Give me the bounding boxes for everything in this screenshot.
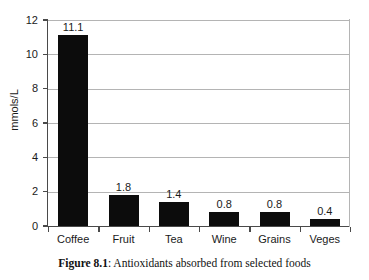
y-axis-tick-label: 0	[8, 221, 38, 232]
x-axis-tick	[199, 227, 200, 232]
bar[interactable]	[109, 195, 139, 226]
figure-caption-text: Antioxidants absorbed from selected food…	[113, 257, 310, 269]
y-axis-tick-label: 4	[8, 152, 38, 163]
x-axis-tick	[149, 227, 150, 232]
bar-value-label: 0.8	[199, 199, 249, 210]
figure-caption-label: Figure 8.1	[58, 257, 108, 269]
gridline	[48, 157, 350, 158]
plot-area	[48, 20, 350, 226]
gridline	[48, 54, 350, 55]
bar[interactable]	[58, 35, 88, 226]
figure-caption: Figure 8.1: Antioxidants absorbed from s…	[0, 256, 369, 270]
gridline	[48, 20, 350, 21]
x-axis-tick	[98, 227, 99, 232]
x-axis-tick	[249, 227, 250, 232]
gridline	[48, 192, 350, 193]
figure: 024681012 CoffeeFruitTeaWineGrainsVeges …	[0, 0, 369, 280]
bar-value-label: 1.8	[98, 182, 148, 193]
y-axis-tick	[43, 122, 48, 123]
bar-value-label: 0.8	[249, 199, 299, 210]
bar-value-label: 11.1	[48, 22, 98, 33]
y-axis-tick-label: 10	[8, 49, 38, 60]
bar[interactable]	[159, 202, 189, 226]
gridline	[48, 89, 350, 90]
gridline	[48, 123, 350, 124]
y-axis-tick	[43, 19, 48, 20]
x-axis-category-label: Tea	[149, 233, 199, 246]
y-axis-tick-label: 2	[8, 186, 38, 197]
x-axis-category-label: Veges	[300, 233, 350, 246]
x-axis-category-label: Coffee	[48, 233, 98, 246]
bar[interactable]	[260, 212, 290, 226]
y-axis-tick	[43, 157, 48, 158]
x-axis-tick	[350, 227, 351, 232]
bar-value-label: 1.4	[149, 189, 199, 200]
x-axis-category-label: Wine	[199, 233, 249, 246]
bar-value-label: 0.4	[300, 206, 350, 217]
x-axis-category-label: Grains	[249, 233, 299, 246]
y-axis-tick	[43, 191, 48, 192]
y-axis-tick	[43, 88, 48, 89]
bar-chart: 024681012 CoffeeFruitTeaWineGrainsVeges …	[0, 0, 369, 248]
x-axis-tick	[48, 227, 49, 232]
x-axis-tick	[300, 227, 301, 232]
bar[interactable]	[209, 212, 239, 226]
x-axis-category-label: Fruit	[98, 233, 148, 246]
y-axis-tick	[43, 54, 48, 55]
y-axis-tick-label: 12	[8, 15, 38, 26]
y-axis-title: mmols/L	[8, 70, 20, 150]
plot-right-border	[349, 19, 350, 227]
bar[interactable]	[310, 219, 340, 226]
